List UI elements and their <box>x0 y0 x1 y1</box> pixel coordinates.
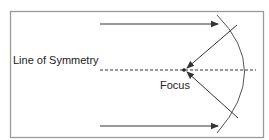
focus-point-icon <box>182 68 186 72</box>
focus-label: Focus <box>160 80 190 91</box>
line-of-symmetry-label: Line of Symmetry <box>13 55 99 66</box>
parabolic-mirror-diagram <box>0 0 269 140</box>
diagram-frame <box>11 12 264 138</box>
